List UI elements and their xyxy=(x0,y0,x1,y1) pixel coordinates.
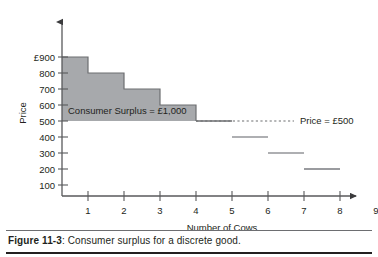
figure-container: £900 800 700 600 500 400 300 200 100 1 2… xyxy=(0,0,378,257)
demand-steps-below-price xyxy=(196,121,340,169)
x-tick-labels: 1 2 3 4 5 6 7 8 9 xyxy=(85,205,378,216)
y-tick-label: 100 xyxy=(39,180,55,191)
x-tick-label: 8 xyxy=(337,205,342,216)
y-tick-labels: £900 800 700 600 500 400 300 200 100 xyxy=(34,52,55,191)
x-tick-label: 7 xyxy=(301,205,306,216)
x-tick-label: 6 xyxy=(265,205,270,216)
figure-separator: : xyxy=(62,235,65,246)
x-tick-label: 3 xyxy=(157,205,162,216)
x-tick-label: 4 xyxy=(193,205,198,216)
figure-number: Figure 11-3 xyxy=(8,235,62,246)
y-axis-title: Price xyxy=(17,102,28,124)
caption-rule-top xyxy=(6,230,372,231)
x-tick-label: 1 xyxy=(85,205,90,216)
y-tick-label: 600 xyxy=(39,100,55,111)
figure-caption: Figure 11-3: Consumer surplus for a disc… xyxy=(8,234,241,247)
y-tick-label: £900 xyxy=(34,52,55,63)
consumer-surplus-chart: £900 800 700 600 500 400 300 200 100 1 2… xyxy=(0,0,378,257)
y-tick-label: 800 xyxy=(39,68,55,79)
x-tick-label: 2 xyxy=(121,205,126,216)
price-line-label: Price = £500 xyxy=(300,115,354,126)
y-tick-label: 500 xyxy=(39,116,55,127)
figure-caption-text: Consumer surplus for a discrete good. xyxy=(68,235,241,246)
caption-rule-bottom xyxy=(6,252,372,254)
y-tick-label: 400 xyxy=(39,132,55,143)
y-tick-label: 700 xyxy=(39,84,55,95)
x-tick-label: 9 xyxy=(373,205,378,216)
x-tick-label: 5 xyxy=(229,205,234,216)
figure-caption-bar: Figure 11-3: Consumer surplus for a disc… xyxy=(6,230,372,254)
y-tick-label: 300 xyxy=(39,148,55,159)
x-axis xyxy=(62,191,356,201)
consumer-surplus-label: Consumer Surplus = £1,000 xyxy=(68,105,187,116)
y-tick-label: 200 xyxy=(39,164,55,175)
